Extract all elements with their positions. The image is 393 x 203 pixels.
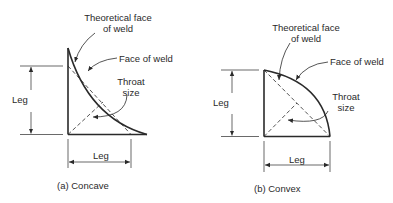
- convex-weld-diagram: [221, 43, 330, 172]
- concave-leg-vertical-label: Leg: [12, 94, 28, 105]
- convex-throat-line1: Throat: [328, 91, 364, 102]
- convex-throat-line2: size: [328, 102, 364, 113]
- convex-face-of-weld-leader: [296, 62, 328, 80]
- concave-face-of-weld-label: Face of weld: [119, 53, 173, 64]
- concave-face-of-weld-leader: [88, 58, 117, 71]
- convex-face-of-weld-label: Face of weld: [330, 56, 384, 67]
- concave-caption: (a) Concave: [57, 180, 109, 191]
- convex-theoretical-face-label: Theoretical face of weld: [246, 22, 366, 44]
- concave-throat-line1: Throat: [113, 76, 149, 87]
- concave-leg-horizontal-label: Leg: [93, 150, 109, 161]
- convex-theoretical-face-line1: Theoretical face: [246, 22, 366, 33]
- concave-throat-line2: size: [113, 87, 149, 98]
- convex-throat-leader: [288, 111, 328, 121]
- convex-leg-vertical-label: Leg: [213, 97, 229, 108]
- convex-leg-horizontal-label: Leg: [289, 154, 305, 165]
- concave-theoretical-face-leader: [75, 33, 95, 62]
- convex-throat-label: Throat size: [328, 91, 364, 113]
- concave-throat-line: [68, 102, 103, 135]
- convex-caption: (b) Convex: [254, 183, 300, 194]
- concave-theoretical-face-line1: Theoretical face: [58, 12, 178, 23]
- concave-throat-label: Throat size: [113, 76, 149, 98]
- concave-theoretical-face-line2: of weld: [58, 23, 178, 34]
- concave-theoretical-face-label: Theoretical face of weld: [58, 12, 178, 34]
- convex-throat-line: [264, 103, 297, 137]
- convex-theoretical-face-line2: of weld: [246, 33, 366, 44]
